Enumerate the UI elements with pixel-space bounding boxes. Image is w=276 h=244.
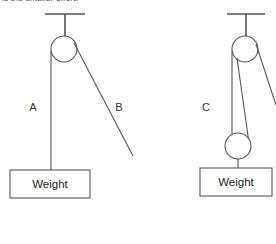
rope-label-b: B — [115, 101, 122, 113]
rope-segment-b — [74, 43, 133, 156]
figure-single-fixed-pulley: A B Weight — [10, 14, 133, 198]
diagram-canvas: is the smaller effort. A B Weight — [0, 0, 276, 244]
pulley-systems-illustration: A B Weight C — [0, 0, 276, 244]
fixed-pulley-wheel-right — [232, 36, 258, 62]
rope-label-c: C — [202, 101, 210, 113]
rope-segment-movable-wrap — [237, 58, 249, 143]
weight-box-label-right: Weight — [218, 176, 254, 188]
fixed-pulley-wheel-left — [51, 36, 77, 62]
figure-compound-pulley: C Weight — [200, 14, 276, 196]
rope-label-a: A — [29, 101, 37, 113]
rope-segment-effort-right — [256, 44, 276, 105]
movable-pulley-wheel — [225, 133, 251, 159]
weight-box-label-left: Weight — [32, 178, 68, 190]
